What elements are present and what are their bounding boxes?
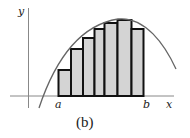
y-axis-label: y xyxy=(17,5,25,18)
figure-caption: (b) xyxy=(76,114,94,131)
x-axis-label: x xyxy=(166,98,173,111)
rectangle-7 xyxy=(132,29,144,96)
rectangle-2 xyxy=(71,49,83,96)
riemann-rectangles xyxy=(59,20,144,96)
riemann-sum-diagram: y x a b (b) xyxy=(0,0,190,138)
interval-end-label: b xyxy=(143,98,150,111)
interval-start-label: a xyxy=(55,98,62,111)
rectangle-3 xyxy=(83,38,95,96)
rectangle-5 xyxy=(105,23,118,96)
rectangle-1 xyxy=(59,70,72,96)
rectangle-4 xyxy=(95,29,105,96)
rectangle-6 xyxy=(118,20,132,96)
